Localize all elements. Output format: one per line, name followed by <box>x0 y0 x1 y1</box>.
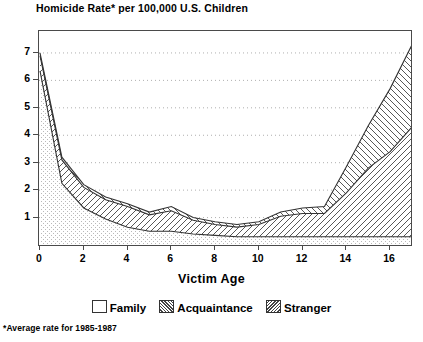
y-axis-tick-3: 3 <box>8 155 30 167</box>
stacked-area-plot <box>39 31 411 245</box>
x-axis-tick-mark <box>83 245 84 250</box>
x-axis-tick-6: 6 <box>159 252 181 264</box>
y-axis-tick-6: 6 <box>8 72 30 84</box>
area-acquaintance <box>40 56 411 237</box>
chart-legend: Family Acquaintance Stranger <box>0 300 423 314</box>
y-axis-tick-5: 5 <box>8 100 30 112</box>
x-axis-title: Victim Age <box>0 272 423 286</box>
x-axis-tick-mark <box>39 245 40 250</box>
legend-item-acquaintance: Acquaintance <box>159 300 252 314</box>
chart-container: Homicide Rate* per 100,000 U.S. Children <box>0 0 423 342</box>
x-axis-tick-2: 2 <box>72 252 94 264</box>
y-axis-tick-mark <box>33 79 39 80</box>
y-axis-tick-mark <box>33 189 39 190</box>
x-axis-tick-10: 10 <box>247 252 269 264</box>
legend-label-acquaintance: Acquaintance <box>177 302 252 314</box>
x-axis-tick-mark <box>170 245 171 250</box>
y-axis-tick-mark <box>33 162 39 163</box>
legend-swatch-stranger <box>266 300 281 313</box>
legend-item-stranger: Stranger <box>266 300 331 314</box>
x-axis-tick-mark <box>302 245 303 250</box>
x-axis-tick-16: 16 <box>378 252 400 264</box>
x-axis-tick-mark <box>127 245 128 250</box>
y-axis-tick-mark <box>33 107 39 108</box>
x-axis-tick-0: 0 <box>28 252 50 264</box>
x-axis-tick-mark <box>345 245 346 250</box>
y-axis-tick-1: 1 <box>8 210 30 222</box>
y-axis-tick-mark <box>33 134 39 135</box>
legend-label-family: Family <box>110 302 146 314</box>
x-axis-tick-4: 4 <box>116 252 138 264</box>
legend-swatch-family <box>92 300 107 313</box>
x-axis-tick-8: 8 <box>203 252 225 264</box>
y-axis-tick-7: 7 <box>8 45 30 57</box>
x-axis-tick-mark <box>389 245 390 250</box>
x-axis-tick-mark <box>214 245 215 250</box>
y-axis-tick-4: 4 <box>8 127 30 139</box>
x-axis-tick-14: 14 <box>334 252 356 264</box>
chart-title: Homicide Rate* per 100,000 U.S. Children <box>36 2 248 14</box>
x-axis-tick-12: 12 <box>291 252 313 264</box>
legend-label-stranger: Stranger <box>284 302 331 314</box>
chart-footnote: *Average rate for 1985-1987 <box>3 323 117 333</box>
legend-item-family: Family <box>92 300 146 314</box>
plot-area <box>38 30 412 246</box>
y-axis-tick-2: 2 <box>8 182 30 194</box>
x-axis-tick-mark <box>258 245 259 250</box>
y-axis-tick-mark <box>33 217 39 218</box>
y-axis-tick-mark <box>33 52 39 53</box>
legend-swatch-acquaintance <box>159 300 174 313</box>
